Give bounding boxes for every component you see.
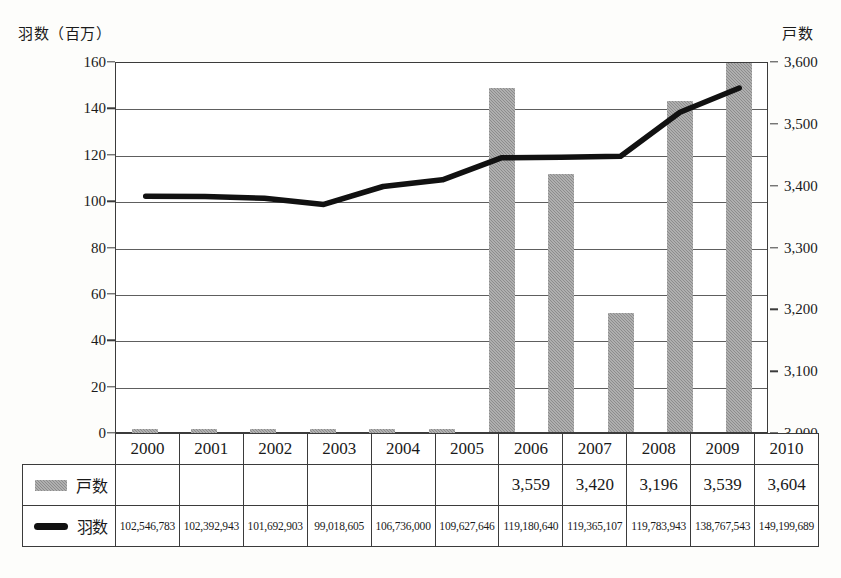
year-header-2010: 2010: [755, 434, 819, 465]
cell-kosu-2004: [371, 465, 435, 506]
year-header-2007: 2007: [563, 434, 627, 465]
year-header-2000: 2000: [116, 434, 180, 465]
line-swatch-icon: [34, 523, 68, 530]
right-tickmark: [770, 61, 778, 62]
cell-kosu-2008: 3,196: [627, 465, 691, 506]
year-header-2002: 2002: [243, 434, 307, 465]
cell-kosu-2003: [307, 465, 371, 506]
cell-kosu-2000: [116, 465, 180, 506]
cell-kosu-2009: 3,539: [691, 465, 755, 506]
cell-hasu-2001: 102,392,943: [179, 506, 243, 547]
cell-kosu-2007: 3,420: [563, 465, 627, 506]
right-tickmark: [770, 185, 778, 186]
year-header-2009: 2009: [691, 434, 755, 465]
left-tickmark: [107, 386, 115, 387]
year-header-2001: 2001: [179, 434, 243, 465]
legend-cell-kosu: 戸数: [23, 465, 116, 506]
cell-kosu-2010: 3,604: [755, 465, 819, 506]
table-row: 羽数102,546,783102,392,943101,692,90399,01…: [23, 506, 819, 547]
cell-kosu-2002: [243, 465, 307, 506]
cell-hasu-2007: 119,365,107: [563, 506, 627, 547]
cell-hasu-2004: 106,736,000: [371, 506, 435, 547]
data-table: 2000200120022003200420052006200720082009…: [22, 433, 819, 547]
legend-label: 羽数: [77, 514, 109, 538]
left-tickmark: [107, 247, 115, 248]
data-table-wrapper: 2000200120022003200420052006200720082009…: [22, 433, 818, 547]
left-tickmark: [107, 154, 115, 155]
header-corner-blank: [23, 434, 116, 465]
right-tickmark: [770, 247, 778, 248]
left-tickmark: [107, 293, 115, 294]
cell-kosu-2006: 3,559: [499, 465, 563, 506]
year-header-2004: 2004: [371, 434, 435, 465]
left-tickmark: [107, 61, 115, 62]
right-tickmark: [770, 123, 778, 124]
line-series-hasu: [116, 63, 768, 433]
cell-hasu-2008: 119,783,943: [627, 506, 691, 547]
cell-hasu-2000: 102,546,783: [116, 506, 180, 547]
right-tickmark: [770, 370, 778, 371]
left-tickmark: [107, 108, 115, 109]
cell-hasu-2003: 99,018,605: [307, 506, 371, 547]
legend-label: 戸数: [76, 473, 108, 497]
legend-cell-hasu: 羽数: [23, 506, 116, 547]
bar-swatch-icon: [35, 480, 67, 491]
left-tickmark: [107, 200, 115, 201]
table-header-row: 2000200120022003200420052006200720082009…: [23, 434, 819, 465]
year-header-2008: 2008: [627, 434, 691, 465]
cell-hasu-2002: 101,692,903: [243, 506, 307, 547]
chart-page: 羽数（百万） 戸数 020406080100120140160 3,0003,1…: [0, 0, 841, 578]
year-header-2003: 2003: [307, 434, 371, 465]
right-tickmark: [770, 309, 778, 310]
year-header-2006: 2006: [499, 434, 563, 465]
cell-hasu-2009: 138,767,543: [691, 506, 755, 547]
cell-hasu-2006: 119,180,640: [499, 506, 563, 547]
cell-kosu-2005: [435, 465, 499, 506]
cell-hasu-2005: 109,627,646: [435, 506, 499, 547]
plot-area: [115, 62, 768, 433]
left-tickmark: [107, 340, 115, 341]
cell-hasu-2010: 149,199,689: [755, 506, 819, 547]
cell-kosu-2001: [179, 465, 243, 506]
year-header-2005: 2005: [435, 434, 499, 465]
table-row: 戸数3,5593,4203,1963,5393,604: [23, 465, 819, 506]
